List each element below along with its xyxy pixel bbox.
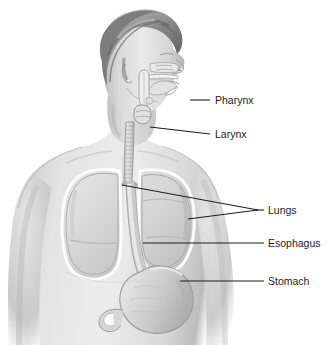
nasal-cavity	[150, 63, 178, 73]
trachea	[124, 122, 134, 182]
label-esophagus: Esophagus	[268, 237, 321, 249]
label-pharynx: Pharynx	[215, 94, 254, 106]
label-larynx: Larynx	[215, 128, 247, 140]
hard-palate	[149, 74, 178, 79]
epiglottis	[146, 98, 153, 104]
larynx	[134, 105, 151, 124]
anatomy-illustration: Pharynx Larynx Lungs Esophagus Stomach	[0, 0, 333, 345]
anatomy-figure: Pharynx Larynx Lungs Esophagus Stomach	[0, 0, 333, 345]
label-lungs: Lungs	[268, 204, 297, 216]
label-stomach: Stomach	[268, 275, 310, 287]
